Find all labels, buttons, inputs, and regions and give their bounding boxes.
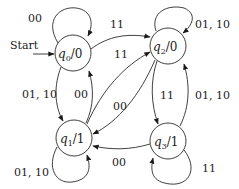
- edge-label-q0-q1: 01, 10: [22, 88, 57, 101]
- edge-label-q3-q3: 11: [202, 162, 216, 175]
- edge-label-q2-q2: 01, 10: [195, 18, 230, 31]
- edge-q3-q1: [93, 144, 150, 149]
- svg-text:q1/1: q1/1: [60, 132, 84, 148]
- state-q0: q0/0: [55, 35, 91, 71]
- edge-label-q0-q0: 00: [28, 12, 42, 25]
- edge-label-q1-q1: 01, 10: [14, 166, 49, 179]
- edge-label-q2-q3: 11: [160, 89, 174, 102]
- svg-text:q0/0: q0/0: [58, 47, 82, 63]
- svg-text:q3/1: q3/1: [154, 135, 178, 151]
- edge-q2-q3: [152, 61, 158, 124]
- state-q2: q2/0: [150, 28, 186, 64]
- edge-label-q1-q2: 11: [114, 48, 128, 61]
- svg-text:q2/0: q2/0: [153, 40, 177, 56]
- edge-q3-q2: [180, 64, 188, 126]
- state-diagram: Start 00 11 01, 10 00 11 00 01, 10 11 01…: [0, 0, 239, 189]
- edge-label-q3-q1: 00: [112, 156, 126, 169]
- edge-q0-q2: [91, 35, 150, 49]
- edge-label-q0-q2: 11: [110, 18, 124, 31]
- edge-label-q1-q0: 00: [74, 88, 88, 101]
- state-q3: q3/1: [150, 123, 186, 159]
- start-label: Start: [10, 39, 39, 52]
- edge-label-q3-q2: 01, 10: [195, 89, 230, 102]
- edge-q0-q1: [56, 67, 63, 121]
- edge-label-q2-q1: 00: [113, 100, 127, 113]
- state-q1: q1/1: [56, 120, 92, 156]
